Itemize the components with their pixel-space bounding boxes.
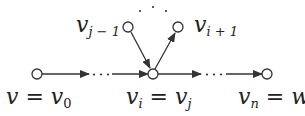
label-vi+1: vi + 1 bbox=[194, 12, 238, 39]
node-vj-1 bbox=[123, 22, 133, 32]
ellipsis-top bbox=[139, 6, 167, 12]
ellipsis-left bbox=[93, 73, 109, 75]
ellipsis-right bbox=[206, 73, 222, 75]
edge-vj-1-to-vi bbox=[131, 32, 150, 68]
diagram-canvas: v = v0 vi = vj vn = w vj − 1 vi + 1 bbox=[0, 0, 305, 116]
edge-vi-to-vi+1 bbox=[155, 33, 175, 69]
node-vi bbox=[148, 69, 158, 79]
node-vi+1 bbox=[173, 22, 183, 32]
label-vn: vn = w bbox=[238, 84, 305, 111]
label-v0: v = v0 bbox=[6, 84, 72, 111]
node-v0 bbox=[32, 69, 42, 79]
node-vn bbox=[262, 69, 272, 79]
label-vi: vi = vj bbox=[126, 84, 192, 111]
path-diagram: v = v0 vi = vj vn = w vj − 1 vi + 1 bbox=[0, 0, 305, 116]
label-vj-1: vj − 1 bbox=[76, 12, 120, 39]
